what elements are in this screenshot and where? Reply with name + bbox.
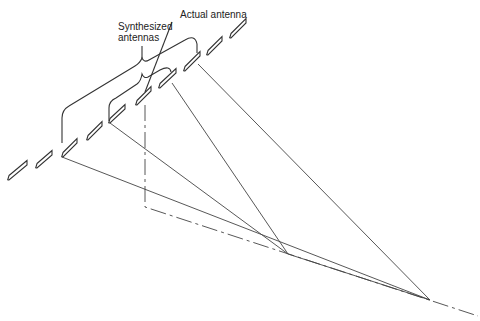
signal-rays [62, 64, 430, 300]
signal-ray [62, 157, 430, 300]
signal-ray [172, 83, 288, 254]
antenna-element [109, 105, 125, 124]
antenna-element [87, 122, 102, 141]
antenna-element [62, 139, 77, 158]
synthesized-antennas-label: Synthesized antennas [118, 21, 172, 43]
actual-antenna-label: Actual antenna [180, 9, 247, 20]
signal-ray [110, 123, 288, 254]
antenna-element [36, 151, 52, 169]
antenna-element [8, 161, 27, 181]
antenna-element [136, 87, 151, 106]
synthetic-aperture-diagram [0, 0, 480, 321]
antenna-element [207, 37, 222, 56]
actual-antenna-path [145, 105, 478, 316]
antenna-element [184, 52, 200, 72]
signal-ray [198, 64, 430, 300]
antenna-element [230, 19, 246, 39]
